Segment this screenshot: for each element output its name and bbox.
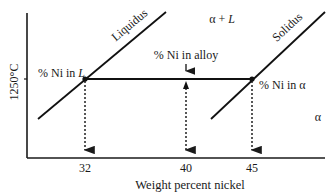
- solidus-line: [211, 12, 325, 119]
- ni-in-alloy-label: % Ni in alloy: [154, 48, 218, 62]
- two-phase-region-label: α + L: [209, 12, 235, 26]
- liquidus-label: Liquidus: [109, 6, 151, 44]
- phase-diagram: 1250°C 32 40 45 Weight percent nickel Li…: [0, 0, 334, 195]
- x-tick-45: 45: [246, 161, 258, 175]
- ni-in-alpha-label: % Ni in α: [259, 78, 306, 92]
- alloy-arrow-up-icon: [183, 81, 189, 89]
- two-phase-alpha: α +: [209, 12, 228, 26]
- two-phase-L: L: [227, 12, 235, 26]
- x-tick-32: 32: [79, 161, 91, 175]
- solidus-label: Solidus: [269, 9, 305, 44]
- alpha-region-label: α: [315, 110, 322, 124]
- x-tick-40: 40: [180, 161, 192, 175]
- y-axis-label: 1250°C: [7, 64, 21, 101]
- x-axis-label: Weight percent nickel: [135, 178, 245, 192]
- ni-in-liquid-label: % Ni in L: [38, 66, 85, 80]
- tie-point-alpha: [249, 76, 254, 81]
